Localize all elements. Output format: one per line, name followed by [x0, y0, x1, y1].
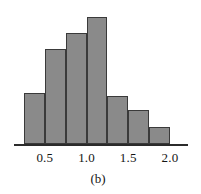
- histogram-bar: [149, 127, 170, 144]
- histogram-bar: [87, 17, 108, 144]
- x-axis-line: [14, 144, 188, 146]
- plot-area: 0.51.01.52.0: [0, 0, 201, 194]
- x-tick-label: 0.5: [36, 150, 53, 166]
- x-tick-label: 2.0: [162, 150, 179, 166]
- figure-caption: (b): [90, 171, 105, 187]
- histogram-bar: [45, 49, 66, 144]
- histogram-bar: [107, 96, 128, 144]
- histogram-bar: [24, 93, 45, 144]
- histogram-bar: [128, 110, 149, 144]
- histogram-bar: [66, 33, 87, 144]
- x-tick-label: 1.0: [78, 150, 95, 166]
- x-tick-label: 1.5: [120, 150, 137, 166]
- histogram-figure: 0.51.01.52.0 (b): [0, 0, 201, 194]
